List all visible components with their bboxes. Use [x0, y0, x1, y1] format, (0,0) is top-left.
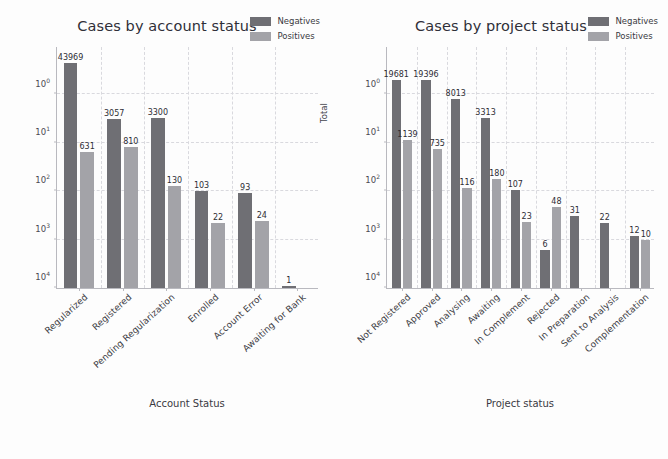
bar-value-label: 22 [600, 214, 610, 222]
bar-value-label: 631 [79, 143, 94, 151]
bar-positives[interactable]: 735 [433, 149, 442, 288]
bar-negatives[interactable]: 31 [570, 216, 579, 288]
bar-value-label: 12 [629, 227, 639, 235]
bar-value-label: 107 [508, 181, 523, 189]
bar-negatives[interactable]: 93 [238, 193, 252, 288]
legend-label-negatives: Negatives [615, 16, 658, 26]
bar-positives[interactable]: 24 [255, 221, 269, 288]
bar-negatives[interactable]: 1 [282, 286, 296, 288]
bar-negatives[interactable]: 3057 [107, 119, 121, 288]
x-tick-mark [640, 288, 641, 291]
bar-negatives[interactable]: 3313 [481, 118, 490, 288]
figure-canvas: Cases by account status 1041031021011004… [0, 0, 668, 459]
x-tick-mark [79, 288, 80, 291]
legend-item-positives[interactable]: Positives [250, 31, 320, 41]
y-tick-label: 104 [35, 270, 57, 282]
x-tick-mark [402, 288, 403, 291]
bar-group: 3300130 [144, 47, 188, 288]
bar-group: 8013116 [447, 47, 477, 288]
legend-item-negatives[interactable]: Negatives [250, 16, 320, 26]
bar-positives[interactable]: 10 [641, 240, 650, 288]
bar-value-label: 6 [543, 241, 548, 249]
bar-negatives[interactable]: 3300 [151, 118, 165, 288]
x-tick-label: Regularized [43, 292, 90, 336]
x-tick-label: In Complement [473, 292, 532, 347]
bar-positives[interactable]: 180 [492, 179, 501, 288]
bar-group: 43969631 [57, 47, 101, 288]
legend-item-negatives[interactable]: Negatives [588, 16, 658, 26]
bar-group: 10723 [506, 47, 536, 288]
bar-value-label: 3057 [104, 110, 124, 118]
y-tick-label: 100 [35, 77, 57, 89]
bar-negatives[interactable]: 22 [600, 223, 609, 288]
bar-group: 19396735 [417, 47, 447, 288]
bar-negatives[interactable]: 6 [540, 250, 549, 288]
legend-label-negatives: Negatives [277, 16, 320, 26]
bar-value-label: 116 [459, 179, 474, 187]
plot-area-project-status: 104103102101100196811139Not Registered19… [386, 47, 654, 289]
bar-group: 196811139 [387, 47, 417, 288]
bar-positives[interactable]: 1139 [403, 140, 412, 288]
y-tick-label: 101 [35, 125, 57, 137]
bar-positives[interactable]: 631 [80, 152, 94, 288]
legend-swatch-positives [588, 32, 609, 41]
x-tick-label: Registered [90, 292, 133, 332]
y-tick-label: 103 [35, 222, 57, 234]
y-tick-label: 102 [35, 173, 57, 185]
y-tick-label: 102 [365, 173, 387, 185]
bar-value-label: 24 [257, 212, 267, 220]
bar-negatives[interactable]: 103 [195, 191, 209, 288]
chart-panel-project-status: Cases by project status 1041031021011001… [334, 0, 668, 459]
bar-positives[interactable]: 810 [124, 147, 138, 288]
legend-account-status: Negatives Positives [250, 16, 320, 41]
x-tick-mark [297, 288, 298, 291]
bar-value-label: 93 [240, 184, 250, 192]
bar-group: 648 [536, 47, 566, 288]
x-axis-label-project-status: Project status [386, 398, 654, 409]
legend-swatch-negatives [250, 17, 271, 26]
x-tick-mark [432, 288, 433, 291]
y-tick-label: 104 [365, 270, 387, 282]
plot-area-account-status: 10410310210110043969631Regularized305781… [56, 47, 318, 289]
bar-negatives[interactable]: 12 [630, 236, 639, 288]
legend-item-positives[interactable]: Positives [588, 31, 658, 41]
bar-positives[interactable]: 48 [552, 207, 561, 288]
bar-positives[interactable]: 23 [522, 222, 531, 288]
x-tick-mark [210, 288, 211, 291]
bar-negatives[interactable]: 107 [511, 190, 520, 288]
chart-panel-account-status: Cases by account status 1041031021011004… [0, 0, 334, 459]
bar-negatives[interactable]: 43969 [64, 63, 78, 288]
bar-negatives[interactable]: 19681 [392, 80, 401, 288]
x-tick-mark [123, 288, 124, 291]
bar-negatives[interactable]: 19396 [421, 80, 430, 288]
bar-positives[interactable]: 116 [462, 188, 471, 288]
bar-value-label: 3313 [475, 109, 495, 117]
legend-swatch-positives [250, 32, 271, 41]
bar-group: 10322 [188, 47, 232, 288]
bar-value-label: 31 [570, 207, 580, 215]
bar-group: 9324 [232, 47, 276, 288]
y-tick-label: 103 [365, 222, 387, 234]
bar-value-label: 735 [430, 140, 445, 148]
y-tick-label: 101 [365, 125, 387, 137]
bar-value-label: 48 [551, 198, 561, 206]
bar-group: 1 [275, 47, 319, 288]
bar-positives[interactable]: 130 [168, 186, 182, 288]
bar-positives[interactable]: 22 [211, 223, 225, 288]
bar-value-label: 1 [286, 277, 291, 285]
x-tick-label: Pending Regularization [92, 292, 177, 370]
bar-value-label: 130 [167, 177, 182, 185]
y-axis-label-project-status: Total [319, 103, 329, 123]
legend-label-positives: Positives [277, 31, 314, 41]
bar-value-label: 19681 [383, 71, 408, 79]
x-axis-label-account-status: Account Status [56, 398, 318, 409]
bar-value-label: 1139 [397, 131, 417, 139]
legend-project-status: Negatives Positives [588, 16, 658, 41]
bar-negatives[interactable]: 8013 [451, 99, 460, 288]
bar-value-label: 19396 [413, 71, 438, 79]
x-tick-mark [491, 288, 492, 291]
bar-value-label: 22 [213, 214, 223, 222]
bar-value-label: 23 [522, 213, 532, 221]
x-tick-mark [581, 288, 582, 291]
bar-group: 1210 [625, 47, 655, 288]
